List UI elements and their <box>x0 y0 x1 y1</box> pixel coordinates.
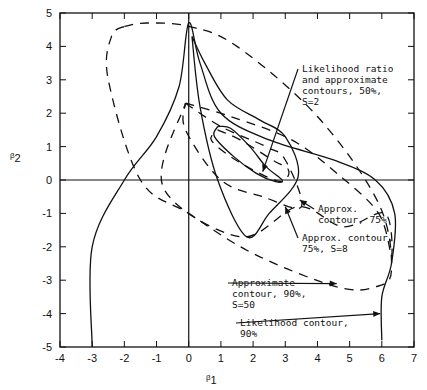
y-tick-label: 0 <box>46 174 52 186</box>
arrowhead-icon <box>300 200 308 206</box>
y-tick-label: -1 <box>42 207 52 219</box>
x-tick-label: -3 <box>87 352 97 364</box>
x-axis-title: β1 <box>206 373 217 386</box>
x-tick-label: 2 <box>250 352 256 364</box>
contour-approximate-contour-50-s-2 <box>211 130 289 182</box>
y-tick-label: 5 <box>46 7 52 19</box>
x-tick-label: 7 <box>411 352 417 364</box>
y-axis-title: β2 <box>10 151 21 164</box>
annotation-arrow <box>263 69 298 172</box>
x-tick-label: -2 <box>119 352 129 364</box>
y-tick-label: -5 <box>42 341 52 353</box>
arrowhead-icon <box>373 311 380 317</box>
y-tick-label: 2 <box>46 107 52 119</box>
x-tick-label: -1 <box>152 352 162 364</box>
y-tick-label: -3 <box>42 274 52 286</box>
x-tick-label: 5 <box>347 352 353 364</box>
y-tick-label: 3 <box>46 74 52 86</box>
annotation-label: Approx.contour, 75% <box>318 203 387 225</box>
annotation-label: Likelihood contour,90% <box>240 317 349 339</box>
y-tick-label: 1 <box>46 141 52 153</box>
annotation-label: Approx. contour,75%, S=8 <box>302 232 394 254</box>
contour-likelihood-ratio-contour-50- <box>214 126 283 182</box>
x-tick-label: 1 <box>218 352 224 364</box>
x-tick-label: 4 <box>314 352 320 364</box>
contour-plot: -4-3-2-101234567-5-4-3-2-1012345 Likelih… <box>0 0 427 390</box>
x-tick-label: 6 <box>379 352 385 364</box>
x-tick-label: -4 <box>55 352 65 364</box>
y-tick-label: -2 <box>42 241 52 253</box>
x-tick-label: 3 <box>282 352 288 364</box>
y-tick-label: -4 <box>42 308 52 320</box>
annotation-label: Approximatecontour, 90%,S=50 <box>232 277 306 310</box>
contour-approx-contour-75- <box>183 103 302 208</box>
x-tick-label: 0 <box>186 352 192 364</box>
arrowhead-icon <box>285 207 291 215</box>
y-tick-label: 4 <box>46 40 52 52</box>
annotation-label: Likelihood ratioand approximatecontours,… <box>302 63 394 107</box>
annotation-arrow <box>228 283 337 284</box>
